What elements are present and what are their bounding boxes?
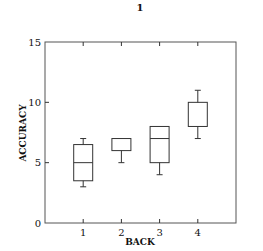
box-group — [188, 90, 207, 138]
y-axis-label: ACCURACY — [18, 104, 28, 163]
axis-ticks — [45, 42, 198, 223]
y-tick-label: 10 — [28, 97, 41, 108]
plot-frame — [45, 42, 236, 223]
box-iqr — [112, 139, 131, 151]
y-tick-label: 0 — [35, 218, 41, 229]
y-tick-label: 5 — [35, 157, 41, 168]
box-group — [150, 126, 169, 174]
x-tick-label: 1 — [80, 227, 86, 238]
boxes — [74, 90, 208, 187]
y-tick-labels: 051015 — [28, 37, 41, 229]
chart-title: 1 — [137, 2, 144, 13]
box-iqr — [150, 126, 169, 162]
y-tick-label: 15 — [28, 37, 41, 48]
x-tick-label: 3 — [156, 227, 162, 238]
box-group — [74, 139, 93, 187]
box-iqr — [188, 102, 207, 126]
box-group — [112, 139, 131, 163]
x-tick-label: 2 — [118, 227, 124, 238]
x-axis-label: BACK — [125, 237, 156, 247]
boxplot-chart: 1 051015 1234 BACK ACCURACY — [0, 0, 263, 251]
x-tick-label: 4 — [195, 227, 201, 238]
